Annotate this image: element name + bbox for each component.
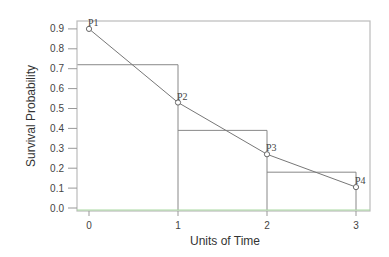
y-tick-label: 0.8 — [50, 43, 64, 54]
y-tick-label: 0.0 — [50, 203, 64, 214]
point-label: P1 — [88, 17, 99, 28]
x-axis-title: Units of Time — [190, 234, 260, 248]
plot-frame — [77, 21, 370, 211]
x-tick-label: 1 — [175, 220, 181, 231]
y-tick-label: 0.7 — [50, 63, 64, 74]
y-tick-label: 0.4 — [50, 123, 64, 134]
survival-curve — [89, 29, 356, 187]
y-tick-label: 0.6 — [50, 83, 64, 94]
step-bar — [178, 130, 267, 210]
point-label: P4 — [355, 175, 366, 186]
y-axis: 0.00.10.20.30.40.50.60.70.80.9 — [50, 23, 77, 213]
y-tick-label: 0.1 — [50, 183, 64, 194]
y-tick-label: 0.5 — [50, 103, 64, 114]
y-tick-label: 0.3 — [50, 143, 64, 154]
survival-line: P1P2P3P4 — [86, 17, 365, 190]
step-bar — [267, 172, 356, 210]
y-tick-label: 0.9 — [50, 23, 64, 34]
y-axis-title: Survival Probability — [24, 65, 38, 167]
x-tick-label: 3 — [353, 220, 359, 231]
point-label: P3 — [266, 142, 277, 153]
x-axis: 0123 — [86, 211, 359, 231]
step-bar — [77, 65, 178, 210]
survival-chart: 0.00.10.20.30.40.50.60.70.80.9 0123 P1P2… — [0, 0, 389, 257]
point-label: P2 — [177, 91, 188, 102]
x-tick-label: 2 — [264, 220, 270, 231]
y-tick-label: 0.2 — [50, 163, 64, 174]
x-tick-label: 0 — [86, 220, 92, 231]
step-rectangles — [77, 65, 356, 210]
